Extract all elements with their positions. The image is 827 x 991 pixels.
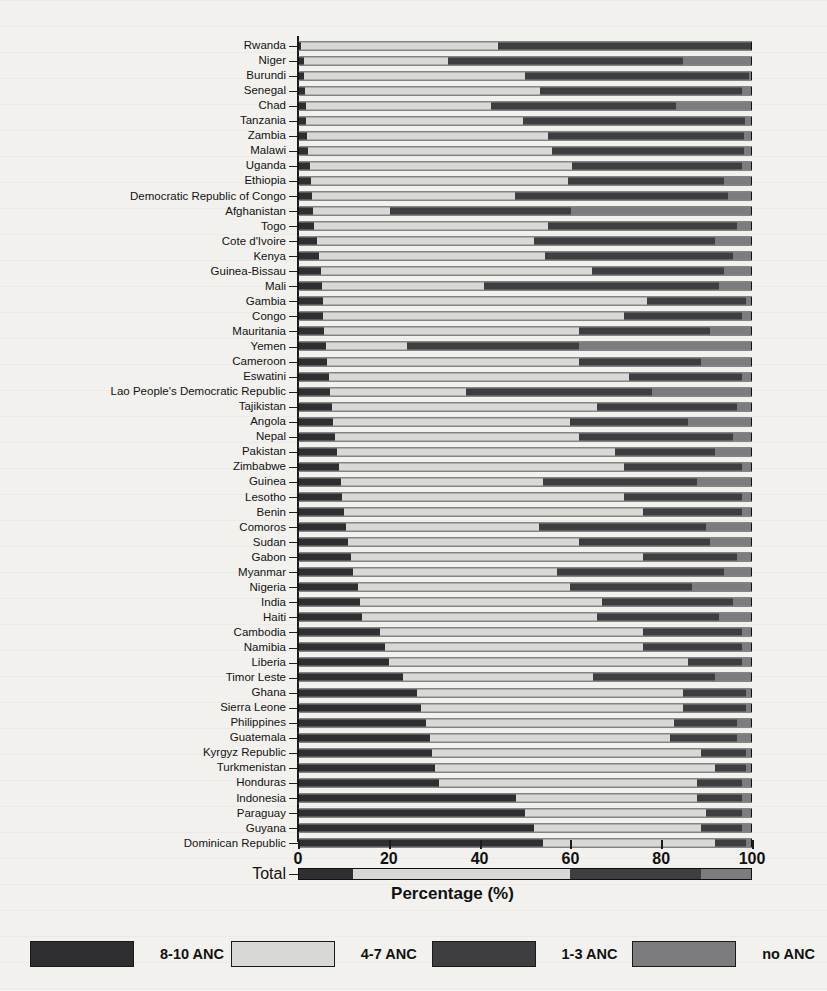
bar-segment-1-3-anc [670,734,738,741]
legend-item-4-7-anc[interactable]: 4-7 ANC [231,941,426,967]
bar-segment-8-10-anc [299,328,324,335]
stacked-bar [298,207,752,216]
bar-row [298,204,752,219]
bar-segment-1-3-anc [525,72,749,79]
y-axis-tick [289,632,298,633]
bar-segment-1-3-anc [568,177,723,184]
bar-segment-8-10-anc [299,298,323,305]
stacked-bar [298,191,752,200]
stacked-bar [298,101,752,110]
bar-row [298,565,752,580]
y-axis-label: Afghanistan [225,204,286,219]
y-axis-tick [289,106,298,107]
bar-segment-8-10-anc [299,644,385,651]
bar-row [298,173,752,188]
bar-segment-1-3-anc [624,493,742,500]
bar-segment-4-7-anc [351,554,643,561]
bar-segment-8-10-anc [299,554,351,561]
bar-segment-4-7-anc [306,117,523,124]
bar-segment-no-anc [742,644,751,651]
bar-segment-8-10-anc [299,448,337,455]
y-axis-tick [289,316,298,317]
stacked-bar [298,808,752,817]
y-axis-tick [289,648,298,649]
y-axis-tick [289,362,298,363]
y-axis-label: Mauritania [232,324,286,339]
x-axis-tick-label: 60 [561,850,579,868]
stacked-bar [298,342,752,351]
bar-row [298,219,752,234]
bar-segment-4-7-anc [430,734,670,741]
stacked-bar [298,432,752,441]
bar-segment-no-anc [724,268,751,275]
bar-segment-8-10-anc [299,614,362,621]
bar-segment-1-3-anc [597,614,719,621]
stacked-bar [298,763,752,772]
bar-segment-8-10-anc [299,599,360,606]
bar-segment-8-10-anc [299,283,322,290]
y-axis-label: Niger [259,53,286,68]
bar-segment-no-anc [701,358,751,365]
stacked-bar [298,868,752,880]
bar-segment-no-anc [742,779,751,786]
y-axis-tick [289,693,298,694]
stacked-bar [298,56,752,65]
bar-row [298,775,752,790]
legend-item-no-anc[interactable]: no ANC [632,941,827,967]
legend-label: 1-3 ANC [562,946,618,962]
bar-segment-1-3-anc [570,584,692,591]
x-axis-tick [570,840,572,849]
stacked-bar [298,387,752,396]
y-axis-tick [289,617,298,618]
bar-segment-8-10-anc [299,358,327,365]
bar-row [298,429,752,444]
bar-row [298,38,752,53]
bar-row [298,655,752,670]
bar-row [298,444,752,459]
bar-segment-8-10-anc [299,824,534,831]
y-axis-label: Zambia [248,128,286,143]
bar-segment-no-anc [742,373,751,380]
stacked-bar [298,447,752,456]
bar-segment-no-anc [719,283,751,290]
bar-row [298,790,752,805]
y-axis-label: Namibia [244,640,286,655]
bar-segment-no-anc [719,614,751,621]
bar-segment-8-10-anc [299,162,310,169]
bar-segment-4-7-anc [305,87,540,94]
stacked-bar [298,628,752,637]
bar-row [298,535,752,550]
stacked-bar [298,778,752,787]
bar-segment-1-3-anc [390,208,571,215]
bar-segment-8-10-anc [299,313,323,320]
stacked-bar [298,462,752,471]
bar-segment-1-3-anc [572,162,742,169]
y-axis-tick [289,286,298,287]
legend-item-8-10-anc[interactable]: 8-10 ANC [30,941,225,967]
bar-segment-no-anc [737,734,751,741]
stacked-bar [298,41,752,50]
y-axis-label: Sierra Leone [220,700,286,715]
bar-segment-1-3-anc [592,268,724,275]
y-axis-label: Gambia [246,294,286,309]
bar-segment-no-anc [733,433,751,440]
bar-segment-8-10-anc [299,629,380,636]
bar-segment-no-anc [742,659,751,666]
bar-segment-1-3-anc [540,87,742,94]
bar-segment-8-10-anc [299,794,516,801]
bar-segment-1-3-anc [548,132,745,139]
y-axis-tick [289,678,298,679]
y-axis-tick [289,392,298,393]
bar-segment-no-anc [715,448,751,455]
y-axis-tick [289,136,298,137]
y-axis-label: Cote d'Ivoire [222,234,286,249]
bar-segment-1-3-anc [491,102,676,109]
bar-segment-4-7-anc [332,403,598,410]
y-axis-tick [289,738,298,739]
y-axis-tick [289,557,298,558]
y-axis-tick [289,467,298,468]
legend-item-1-3-anc[interactable]: 1-3 ANC [432,941,627,967]
bar-segment-8-10-anc [299,659,389,666]
y-axis-tick [289,527,298,528]
bar-segment-1-3-anc [597,403,737,410]
